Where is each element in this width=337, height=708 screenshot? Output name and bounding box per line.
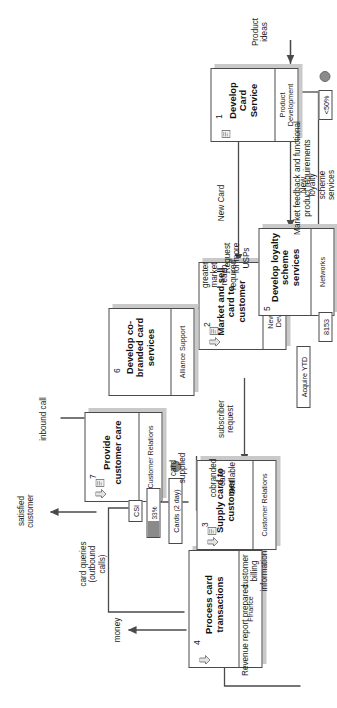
flow-label-card-supplied: card supplied <box>168 444 187 492</box>
flow-label-greater-market-reach-required: greater market reach required <box>200 246 238 304</box>
diagram-stage: 4 Process card transactions Finance 3 <box>0 0 337 708</box>
flow-label-market-feedback: Market feedback and functional product r… <box>292 82 313 274</box>
flow-label-card-queries: card queries (outbound calls) <box>78 528 106 600</box>
flow-label-satisfied-customer: satisfied customer <box>16 478 35 544</box>
flow-label-product-ideas: Product ideas <box>250 6 269 58</box>
flow-label-subscriber-request: subscriber request <box>216 386 235 452</box>
flow-label-inbound-call: inbound call <box>38 380 47 458</box>
flow-label-revenue-report-prepared: Revenue report prepared <box>240 506 249 676</box>
label-layer: Product ideas New Card New loyalty schem… <box>0 0 337 708</box>
flow-label-cobranded-card-available: cobranded card available <box>208 448 236 508</box>
flow-label-money: money <box>112 604 121 656</box>
